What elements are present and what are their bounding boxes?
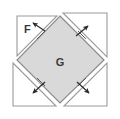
label-area-g: G: [56, 56, 65, 68]
geometry-diagram: F G: [0, 0, 120, 119]
diagram-canvas: F G: [0, 0, 120, 119]
label-force-f: F: [24, 23, 31, 35]
